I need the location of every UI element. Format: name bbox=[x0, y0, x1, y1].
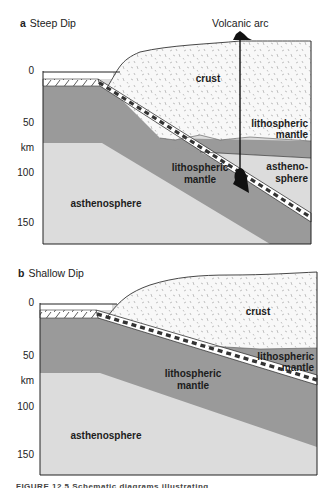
tick-50: 50 bbox=[8, 350, 34, 361]
slab-lith-label-2: mantle bbox=[160, 174, 240, 185]
tick-100: 100 bbox=[8, 167, 34, 178]
tick-km: km bbox=[8, 375, 34, 386]
overriding-lith-label-1: lithospheric bbox=[246, 351, 314, 362]
slab-lith-label-1: lithospheric bbox=[153, 368, 233, 379]
panel-b-title: bShallow Dip bbox=[18, 267, 84, 279]
overriding-lith-label-2: mantle bbox=[240, 129, 308, 140]
figure-caption: FIGURE 12.5 Schematic diagrams illustrat… bbox=[16, 482, 209, 488]
panel-b-title-text: Shallow Dip bbox=[28, 267, 83, 279]
tick-km: km bbox=[8, 142, 34, 153]
crust-label: crust bbox=[238, 306, 278, 317]
panel-a-title-text: Steep Dip bbox=[30, 17, 76, 29]
tick-0: 0 bbox=[8, 65, 34, 76]
slab-lith-label-2: mantle bbox=[153, 380, 233, 391]
wedge-astheno-label-1: astheno- bbox=[250, 161, 308, 172]
volcanic-arc-label: Volcanic arc bbox=[212, 17, 269, 29]
asthenosphere-label: asthenosphere bbox=[66, 198, 146, 209]
tick-100: 100 bbox=[8, 401, 34, 412]
tick-50: 50 bbox=[8, 117, 34, 128]
panel-b-letter: b bbox=[18, 267, 24, 279]
slab-lith-label-1: lithospheric bbox=[160, 162, 240, 173]
tick-150: 150 bbox=[8, 449, 34, 460]
tick-0: 0 bbox=[8, 297, 34, 308]
diagram-canvas bbox=[0, 0, 332, 489]
overriding-lith-label-1: lithospheric bbox=[240, 118, 308, 129]
wedge-astheno-label-2: sphere bbox=[250, 173, 308, 184]
crust-label: crust bbox=[190, 73, 226, 84]
volcano-icon bbox=[233, 31, 252, 40]
panel-a-letter: a bbox=[20, 17, 26, 29]
overriding-lith-label-2: mantle bbox=[246, 362, 314, 373]
asthenosphere-label: asthenosphere bbox=[66, 430, 146, 441]
panel-a-title: aSteep Dip bbox=[20, 17, 76, 29]
tick-150: 150 bbox=[8, 217, 34, 228]
oceanic-crust-flat bbox=[40, 310, 102, 318]
oceanic-crust-flat bbox=[43, 79, 104, 86]
